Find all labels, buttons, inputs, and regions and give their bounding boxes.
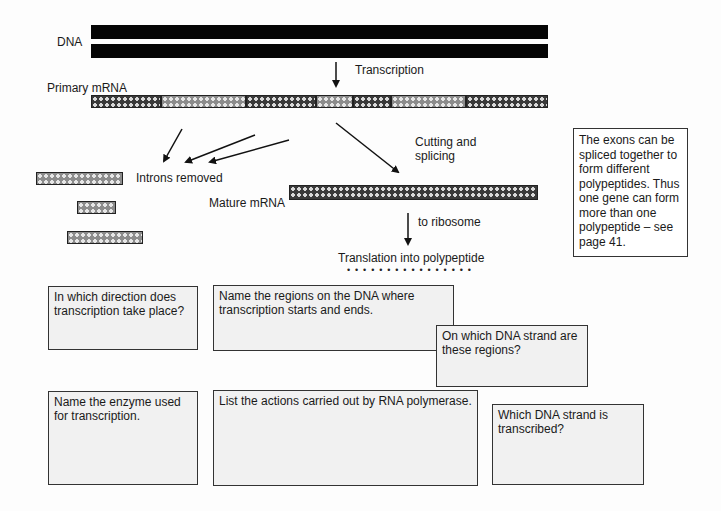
removed-intron-3 (67, 231, 143, 244)
question-box-rna-polymerase-actions[interactable]: List the actions carried out by RNA poly… (213, 390, 478, 486)
question-box-direction[interactable]: In which direction does transcription ta… (48, 286, 198, 350)
alternative-splicing-note: The exons can be spliced together to for… (573, 128, 688, 257)
intron-arrow-2-icon (186, 135, 255, 162)
cutting-splicing-label-1: Cutting and (415, 135, 476, 149)
intron-segment (391, 95, 466, 108)
removed-intron-2 (77, 201, 116, 214)
transcription-label: Transcription (355, 63, 424, 77)
mature-mrna-strand (289, 185, 538, 200)
to-ribosome-label: to ribosome (418, 215, 481, 229)
cutting-splicing-label-2: splicing (415, 149, 455, 163)
removed-intron-1 (36, 172, 123, 185)
intron-arrow-3-icon (210, 140, 289, 162)
intron-segment (316, 95, 353, 108)
question-box-enzyme[interactable]: Name the enzyme used for transcription. (48, 391, 198, 485)
splicing-arrow-icon (336, 123, 398, 172)
intron-segment (161, 95, 246, 108)
primary-mrna-strand (0, 95, 721, 108)
polypeptide-chain: • • • • • • • • • • • • • • • • (347, 265, 472, 275)
intron-arrow-1-icon (164, 129, 182, 161)
primary-mrna-label: Primary mRNA (47, 81, 127, 95)
exon-segment (466, 95, 548, 108)
mature-mrna-label: Mature mRNA (209, 196, 285, 210)
translation-label: Translation into polypeptide (338, 251, 484, 265)
exon-segment (91, 95, 161, 108)
question-box-transcribed-strand[interactable]: Which DNA strand is transcribed? (492, 404, 644, 485)
question-box-regions[interactable]: Name the regions on the DNA where transc… (213, 285, 454, 351)
exon-segment (353, 95, 391, 108)
question-box-strand-regions[interactable]: On which DNA strand are these regions? (436, 325, 588, 387)
introns-removed-label: Introns removed (136, 171, 223, 185)
exon-segment (246, 95, 316, 108)
